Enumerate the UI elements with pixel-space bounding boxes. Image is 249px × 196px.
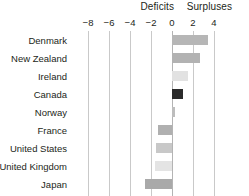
bar-row: Japan	[0, 175, 249, 193]
x-tick-label: −2	[146, 17, 157, 28]
bar-row: France	[0, 121, 249, 139]
x-tick-label: 4	[211, 17, 216, 28]
bar-chart: DeficitsSurpluses −8−6−4−2024 DenmarkNew…	[0, 0, 249, 196]
category-label: Ireland	[38, 71, 67, 82]
bar	[172, 53, 200, 63]
bar	[145, 179, 172, 189]
x-tick-label: −4	[125, 17, 136, 28]
bar-row: Canada	[0, 85, 249, 103]
category-label: New Zealand	[11, 53, 67, 64]
bar	[172, 89, 183, 99]
category-label: Denmark	[28, 35, 67, 46]
x-tick-label: −6	[104, 17, 115, 28]
x-tick-label: −8	[83, 17, 94, 28]
bar	[158, 125, 172, 135]
category-label: Japan	[41, 179, 67, 190]
category-label: United States	[10, 143, 67, 154]
bar-row: Ireland	[0, 67, 249, 85]
band-label-deficits: Deficits	[141, 1, 175, 12]
bar-row: United Kingdom	[0, 157, 249, 175]
plot-area: DenmarkNew ZealandIrelandCanadaNorwayFra…	[0, 31, 249, 196]
category-label: France	[37, 125, 67, 136]
bar	[156, 143, 172, 153]
bar-row: United States	[0, 139, 249, 157]
band-label-surpluses: Surpluses	[187, 1, 232, 12]
category-label: Norway	[35, 107, 67, 118]
bar-row: Denmark	[0, 31, 249, 49]
category-label: United Kingdom	[0, 161, 67, 172]
bar	[155, 161, 172, 171]
bar	[172, 35, 208, 45]
bar	[172, 71, 188, 81]
bar-row: Norway	[0, 103, 249, 121]
category-label: Canada	[34, 89, 67, 100]
bar-row: New Zealand	[0, 49, 249, 67]
x-tick-label: 0	[169, 17, 174, 28]
x-tick-label: 2	[190, 17, 195, 28]
bar	[172, 107, 175, 117]
